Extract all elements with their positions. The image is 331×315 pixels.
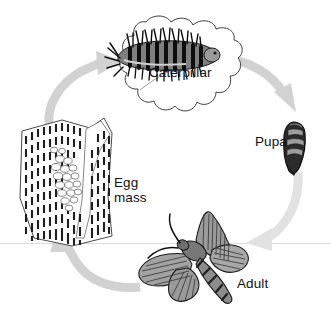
pupa-icon — [284, 122, 306, 176]
adult-moth-icon — [139, 212, 248, 304]
label-egg-mass: Egg mass — [114, 176, 147, 205]
life-cycle-diagram: Caterpillar Pupa Egg mass Adult — [0, 0, 331, 315]
label-caterpillar: Caterpillar — [149, 66, 212, 80]
caterpillar-on-leaf-icon — [105, 16, 242, 111]
label-adult: Adult — [237, 277, 268, 291]
label-pupa: Pupa — [255, 135, 287, 149]
egg-mass-on-bark-icon — [20, 118, 112, 246]
life-stage-art-layer — [0, 0, 331, 315]
